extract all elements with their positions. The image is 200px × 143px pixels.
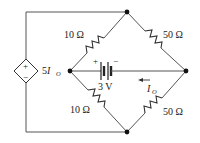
resistor-top-right [127, 12, 186, 71]
battery [101, 62, 111, 80]
node-right [184, 69, 189, 74]
current-arrow-icon [138, 78, 150, 82]
svg-text:5I: 5I [42, 65, 51, 76]
dependent-voltage-source: + − [14, 59, 38, 83]
battery-plus: + [93, 56, 98, 66]
dep-source-minus: − [23, 72, 28, 82]
resistor-top-left [70, 12, 127, 71]
label-r-top-right: 50 Ω [163, 29, 183, 40]
circuit-diagram: + − 5I O 10 Ω 50 Ω 10 Ω 50 Ω + − [0, 0, 200, 143]
battery-label: 3 V [98, 81, 113, 92]
node-bottom [125, 130, 130, 135]
node-left [68, 69, 73, 74]
label-r-bottom-left: 10 Ω [70, 104, 90, 115]
battery-minus: − [113, 56, 118, 66]
dep-source-label: 5I O [42, 65, 61, 77]
dep-sub: O [56, 70, 61, 77]
label-r-top-left: 10 Ω [64, 29, 84, 40]
current-label-sub: O [152, 88, 157, 95]
dep-var: I [46, 65, 51, 76]
label-r-bottom-right: 50 Ω [163, 106, 183, 117]
node-top [125, 10, 130, 15]
resistor-bottom-right [127, 71, 186, 132]
current-label: I [146, 83, 151, 94]
dep-source-plus: + [23, 61, 28, 71]
